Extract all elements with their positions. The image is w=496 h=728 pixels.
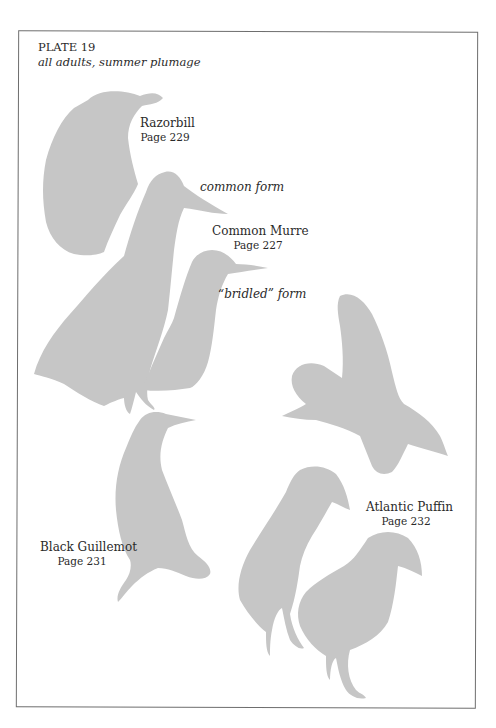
- flying-puffin-silhouette: [282, 294, 448, 474]
- species-page-reference: Page 229: [140, 130, 190, 144]
- atlantic-puffin-label: Atlantic Puffin Page 232: [366, 500, 446, 528]
- razorbill-label: Razorbill Page 229: [140, 116, 190, 144]
- puffin-standing-front-silhouette: [298, 532, 422, 699]
- species-name: Razorbill: [140, 116, 190, 130]
- species-page-reference: Page 227: [212, 238, 304, 252]
- bird-silhouettes: [0, 0, 496, 728]
- plate-subtitle: all adults, summer plumage: [38, 55, 200, 69]
- common-murre-label: Common Murre Page 227: [212, 224, 304, 252]
- black-guillemot-label: Black Guillemot Page 231: [40, 540, 124, 568]
- black-guillemot-silhouette: [115, 412, 210, 602]
- species-name: Common Murre: [212, 224, 304, 238]
- species-name: Black Guillemot: [40, 540, 124, 554]
- plate-number: PLATE 19: [38, 40, 95, 54]
- species-page-reference: Page 232: [366, 514, 446, 528]
- species-page-reference: Page 231: [40, 554, 124, 568]
- species-name: Atlantic Puffin: [366, 500, 446, 514]
- common-form-note: common form: [200, 180, 284, 194]
- bridled-form-note: “bridled” form: [218, 287, 306, 301]
